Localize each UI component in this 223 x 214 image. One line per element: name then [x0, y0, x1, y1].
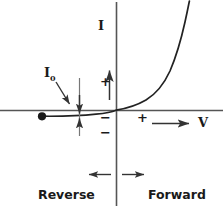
diode-iv-characteristic-figure: I V I0 + − − + Reverse bias Forward bias [0, 0, 223, 214]
saturation-current-leader-arrow [56, 82, 70, 104]
reverse-bias-line1: Reverse [38, 188, 95, 202]
negative-sign-upper: − [100, 111, 111, 126]
positive-current-sign: + [100, 75, 111, 90]
forward-bias-label: Forward bias [148, 160, 206, 214]
negative-sign-lower: − [100, 126, 111, 141]
saturation-current-label: I0 [44, 66, 56, 83]
saturation-current-subscript: 0 [50, 73, 56, 83]
positive-voltage-sign: + [137, 111, 148, 126]
saturation-current-endpoint-dot [38, 112, 46, 120]
current-axis-label: I [98, 19, 104, 34]
forward-bias-line1: Forward [148, 188, 206, 202]
diode-iv-curve [41, 1, 189, 116]
voltage-axis-label: V [198, 116, 208, 131]
reverse-bias-label: Reverse bias [38, 160, 95, 214]
